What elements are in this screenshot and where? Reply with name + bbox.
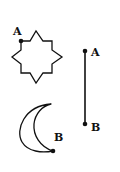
line-segment — [83, 49, 88, 127]
crescent-shape — [20, 104, 56, 153]
star-label-a: A — [12, 25, 22, 38]
crescent-point-b — [51, 149, 56, 154]
line-point-b — [83, 122, 88, 127]
line-label-b: B — [91, 121, 100, 134]
crescent-label-b: B — [54, 131, 63, 144]
star-point-a — [19, 39, 24, 44]
line-label-a: A — [90, 46, 100, 59]
figure-canvas: A A B B — [0, 0, 120, 172]
star-shape — [12, 31, 62, 83]
line-point-a — [83, 49, 88, 54]
